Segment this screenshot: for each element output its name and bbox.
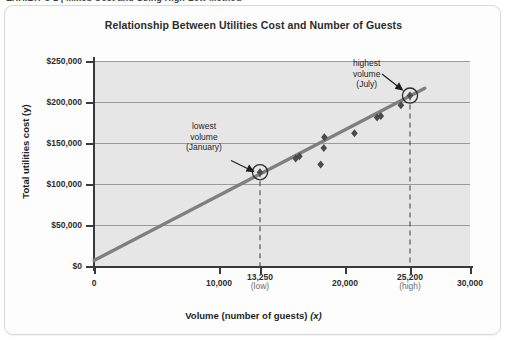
- y-tick-mark: [86, 266, 93, 268]
- gridline-200000: [94, 102, 470, 103]
- x-tick-mark: [470, 266, 472, 274]
- y-axis-line: [93, 57, 95, 271]
- x-tick-label-0: 0: [92, 278, 97, 288]
- x-axis-title: Volume (number of guests) (x): [0, 310, 507, 321]
- annotation-lowest-line1: lowest: [192, 121, 216, 131]
- annotation-lowest-line3: (January): [186, 142, 222, 152]
- y-tick-mark: [86, 143, 93, 145]
- y-tick-mark: [86, 102, 93, 104]
- annotation-lowest-volume: lowest volume (January): [186, 121, 222, 153]
- y-tick-label-250000: $250,000: [16, 56, 82, 66]
- x-axis-line: [90, 266, 473, 268]
- y-tick-mark: [86, 61, 93, 63]
- x-tick-mark: [94, 266, 96, 274]
- y-tick-mark: [86, 225, 93, 227]
- x-tick-label-13250: 13,250 (low): [247, 272, 273, 291]
- gridline-50000: [94, 225, 470, 226]
- x-tick-label-25200: 25,200 (high): [397, 272, 423, 291]
- x-axis-title-text: Volume (number of guests): [185, 310, 310, 321]
- y-tick-mark: [86, 184, 93, 186]
- x-tick-label-10000: 10,000: [206, 278, 232, 288]
- annotation-lowest-line2: volume: [190, 132, 217, 142]
- exhibit-caption: EXHIBIT 5-1 | Mixed Cost and Using High-…: [6, 0, 306, 3]
- plot-area: [94, 61, 470, 267]
- gridline-250000: [94, 61, 470, 62]
- gridline-100000: [94, 184, 470, 185]
- x-tick-mark: [345, 266, 347, 274]
- y-axis-title: Total utilities cost (y): [20, 72, 31, 232]
- x-tick-label-20000: 20,000: [332, 278, 358, 288]
- annotation-highest-volume: highest volume (July): [353, 58, 380, 90]
- x-axis-title-variable: (x): [310, 310, 322, 321]
- x-tick-label-30000: 30,000: [457, 278, 483, 288]
- y-tick-label-0: $0: [16, 261, 82, 271]
- annotation-highest-line1: highest: [353, 58, 380, 68]
- annotation-highest-line2: volume: [353, 69, 380, 79]
- x-tick-sublabel: (low): [247, 281, 273, 291]
- chart-title: Relationship Between Utilities Cost and …: [0, 19, 507, 31]
- x-tick-sublabel: (high): [397, 281, 423, 291]
- gridline-150000: [94, 143, 470, 144]
- annotation-highest-line3: (July): [356, 79, 377, 89]
- x-tick-mark: [219, 266, 221, 274]
